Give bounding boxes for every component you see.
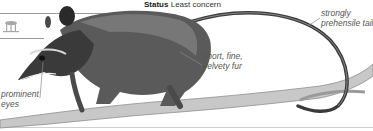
annotation-tail: strongly prehensile tail	[321, 9, 373, 28]
animal-illustration	[0, 0, 373, 131]
annotation-tail-line2: prehensile tail	[321, 19, 373, 29]
annotation-fur-line2: velvety fur	[203, 62, 243, 72]
status-value: Least concern	[171, 0, 221, 9]
ear	[59, 6, 75, 26]
eye	[39, 56, 45, 61]
status-key: Status	[144, 0, 168, 9]
tail-leader	[308, 18, 320, 26]
status-label: Status Least concern	[144, 0, 221, 9]
annotation-eyes-line2: eyes	[1, 100, 39, 110]
annotation-eyes: prominent eyes	[1, 90, 39, 109]
front-leg	[72, 74, 82, 110]
annotation-fur: short, fine, velvety fur	[203, 52, 243, 71]
